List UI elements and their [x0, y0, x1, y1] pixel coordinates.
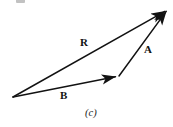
- vector-label-a: A: [144, 44, 152, 55]
- vector-a-arrow: [119, 11, 166, 76]
- vector-label-b: B: [60, 90, 67, 101]
- figure-caption: (c): [85, 108, 97, 119]
- vector-diagram-figure: R A B (c): [0, 0, 173, 127]
- vector-label-r: R: [80, 37, 88, 48]
- vector-r-arrow: [13, 11, 165, 97]
